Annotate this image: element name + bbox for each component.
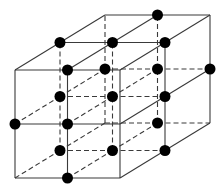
atom	[10, 119, 21, 130]
lattice-edge	[113, 15, 158, 43]
hidden-lattice-edge	[113, 123, 158, 151]
atom	[55, 145, 66, 156]
atom	[107, 37, 118, 48]
atom	[100, 64, 111, 75]
hidden-lattice-edge	[68, 151, 113, 179]
lattice-edge	[120, 151, 165, 179]
hidden-lattice-edge	[68, 97, 113, 125]
hidden-lattice-edge	[15, 97, 60, 125]
hidden-lattice-edge	[113, 69, 158, 97]
atom	[55, 91, 66, 102]
hidden-lattice-edge	[15, 151, 60, 179]
lattice-diagram	[0, 0, 224, 187]
atom	[160, 145, 171, 156]
lattice-edge	[15, 43, 60, 71]
atom	[152, 10, 163, 21]
lattice-edge	[60, 15, 105, 43]
atom	[160, 91, 171, 102]
atoms	[10, 10, 216, 184]
lattice-edge	[165, 69, 210, 97]
atom	[55, 37, 66, 48]
atom	[152, 118, 163, 129]
lattice-edge	[165, 123, 210, 151]
atom	[160, 37, 171, 48]
atom	[62, 119, 73, 130]
atom	[62, 173, 73, 184]
atom	[62, 65, 73, 76]
lattice-edge	[165, 15, 210, 43]
atom	[205, 64, 216, 75]
atom	[107, 91, 118, 102]
atom	[107, 145, 118, 156]
atom	[152, 64, 163, 75]
